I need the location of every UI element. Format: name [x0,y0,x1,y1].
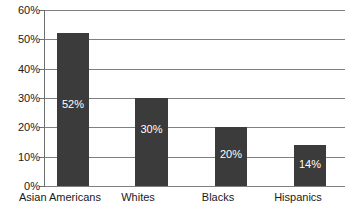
y-axis-label-60: 60% [0,5,40,16]
bar-value-label: 30% [135,124,168,135]
x-axis-label-asian-americans: Asian Americans [17,191,103,203]
bar-hispanics: 14% [294,145,326,186]
gridline-20 [44,127,345,128]
x-axis-label-hispanics: Hispanics [263,191,333,203]
y-axis-line [44,10,45,187]
plot-area: 52% 30% 20% 14% [44,10,345,186]
gridline-0 [44,186,345,187]
bar-asian-americans: 52% [57,33,89,186]
bar-whites: 30% [135,98,168,186]
bar-blacks: 20% [215,127,247,186]
x-axis-label-whites: Whites [108,191,168,203]
y-axis-label-10: 10% [0,152,40,163]
y-axis-label-30: 30% [0,93,40,104]
gridline-40 [44,69,345,70]
gridline-60 [44,10,345,11]
x-axis-label-blacks: Blacks [188,191,248,203]
y-axis-label-50: 50% [0,34,40,45]
bar-value-label: 14% [294,159,326,170]
y-axis-label-40: 40% [0,64,40,75]
gridline-50 [44,39,345,40]
bar-value-label: 52% [57,99,89,110]
bar-value-label: 20% [215,149,247,160]
bar-chart: 52% 30% 20% 14% 60% 50% 40% 30% 20% 10% … [0,0,353,210]
gridline-30 [44,98,345,99]
y-axis-label-20: 20% [0,122,40,133]
